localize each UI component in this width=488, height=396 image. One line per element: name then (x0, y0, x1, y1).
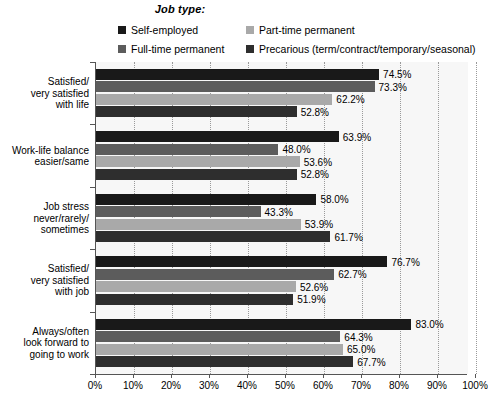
y-axis-tick (90, 374, 95, 375)
y-axis-tick (90, 312, 95, 313)
bar (96, 81, 375, 92)
bar (96, 269, 334, 280)
y-axis-category-label: Job stress never/rarely/ sometimes (0, 201, 89, 236)
bar-value-label: 67.7% (353, 356, 385, 367)
bar-value-label: 48.0% (278, 144, 310, 155)
bar-row: 53.9% (96, 219, 468, 230)
legend-item-full-time-permanent: Full-time permanent (118, 43, 246, 55)
bar (96, 344, 343, 355)
bar-row: 64.3% (96, 331, 468, 342)
x-axis-line (95, 374, 467, 375)
bar-value-label: 61.7% (330, 231, 362, 242)
x-axis-tick (171, 374, 172, 378)
x-axis-tick-label: 50% (275, 380, 295, 391)
y-axis-category-label: Work-life balance easier/same (0, 144, 89, 167)
bar (96, 194, 316, 205)
bar-row: 63.9% (96, 131, 468, 142)
bar-row: 67.7% (96, 356, 468, 367)
bar-value-label: 76.7% (387, 256, 419, 267)
x-axis-tick-label: 30% (199, 380, 219, 391)
bar-row: 52.6% (96, 281, 468, 292)
x-axis-tick (323, 374, 324, 378)
bar-value-label: 52.8% (297, 106, 329, 117)
bar (96, 131, 339, 142)
bar (96, 356, 353, 367)
legend-swatch-icon (246, 26, 254, 34)
bar-row: 52.8% (96, 106, 468, 117)
bar-row: 51.9% (96, 294, 468, 305)
x-axis-tick-label: 40% (237, 380, 257, 391)
bar-row: 76.7% (96, 256, 468, 267)
x-axis-tick (285, 374, 286, 378)
legend-label: Part-time permanent (259, 24, 355, 36)
bar (96, 231, 330, 242)
legend-swatch-icon (118, 45, 126, 53)
bar-row: 65.0% (96, 344, 468, 355)
x-axis-tick (361, 374, 362, 378)
bar-row: 48.0% (96, 144, 468, 155)
gridline (476, 62, 477, 374)
bar (96, 219, 301, 230)
chart-legend: Self-employed Part-time permanent Full-t… (118, 24, 466, 55)
bar-value-label: 74.5% (379, 69, 411, 80)
legend-item-part-time-permanent: Part-time permanent (246, 24, 466, 36)
x-axis-tick (475, 374, 476, 378)
bar-value-label: 63.9% (339, 131, 371, 142)
x-axis-tick-label: 80% (389, 380, 409, 391)
plot-area: 74.5%73.3%62.2%52.8%63.9%48.0%53.6%52.8%… (95, 62, 468, 374)
legend-title: Job type: (0, 3, 360, 15)
x-axis-tick (247, 374, 248, 378)
bar-value-label: 64.3% (340, 331, 372, 342)
bar (96, 319, 411, 330)
x-axis-tick (133, 374, 134, 378)
legend-label: Self-employed (131, 24, 198, 36)
bar-row: 62.2% (96, 94, 468, 105)
x-axis-tick-label: 100% (462, 380, 488, 391)
legend-label: Full-time permanent (131, 43, 224, 55)
bar (96, 331, 340, 342)
bar-row: 58.0% (96, 194, 468, 205)
x-axis-tick-label: 0% (88, 380, 102, 391)
bar (96, 106, 297, 117)
bar-value-label: 51.9% (293, 294, 325, 305)
bar-row: 73.3% (96, 81, 468, 92)
bar (96, 144, 278, 155)
bar-value-label: 43.3% (261, 206, 293, 217)
y-axis-category-label: Satisfied/ very satisfied with life (0, 76, 89, 111)
x-axis-tick (95, 374, 96, 378)
legend-item-precarious: Precarious (term/contract/temporary/seas… (246, 43, 466, 55)
bar (96, 206, 261, 217)
bar-row: 52.8% (96, 169, 468, 180)
legend-swatch-icon (118, 26, 126, 34)
legend-item-self-employed: Self-employed (118, 24, 246, 36)
bar-value-label: 62.7% (334, 269, 366, 280)
y-axis-category-label: Satisfied/ very satisfied with job (0, 263, 89, 298)
x-axis-tick (437, 374, 438, 378)
y-axis-tick (90, 62, 95, 63)
bar (96, 156, 300, 167)
bar-value-label: 83.0% (411, 319, 443, 330)
bar (96, 256, 387, 267)
legend-swatch-icon (246, 45, 254, 53)
y-axis-tick (90, 187, 95, 188)
bar-value-label: 52.8% (297, 169, 329, 180)
x-axis-tick (399, 374, 400, 378)
x-axis-tick-label: 60% (313, 380, 333, 391)
bar-row: 53.6% (96, 156, 468, 167)
bar-row: 83.0% (96, 319, 468, 330)
bar-row: 61.7% (96, 231, 468, 242)
x-axis-tick (209, 374, 210, 378)
bar (96, 69, 379, 80)
bar-row: 74.5% (96, 69, 468, 80)
y-axis-tick (90, 124, 95, 125)
y-axis-tick (90, 249, 95, 250)
bar-value-label: 53.9% (301, 219, 333, 230)
bar-row: 43.3% (96, 206, 468, 217)
x-axis-tick-label: 70% (351, 380, 371, 391)
bar-value-label: 53.6% (300, 156, 332, 167)
bar-value-label: 52.6% (296, 281, 328, 292)
y-axis-category-label: Always/often look forward to going to wo… (0, 326, 89, 361)
bar-value-label: 58.0% (316, 194, 348, 205)
x-axis-tick-label: 90% (427, 380, 447, 391)
